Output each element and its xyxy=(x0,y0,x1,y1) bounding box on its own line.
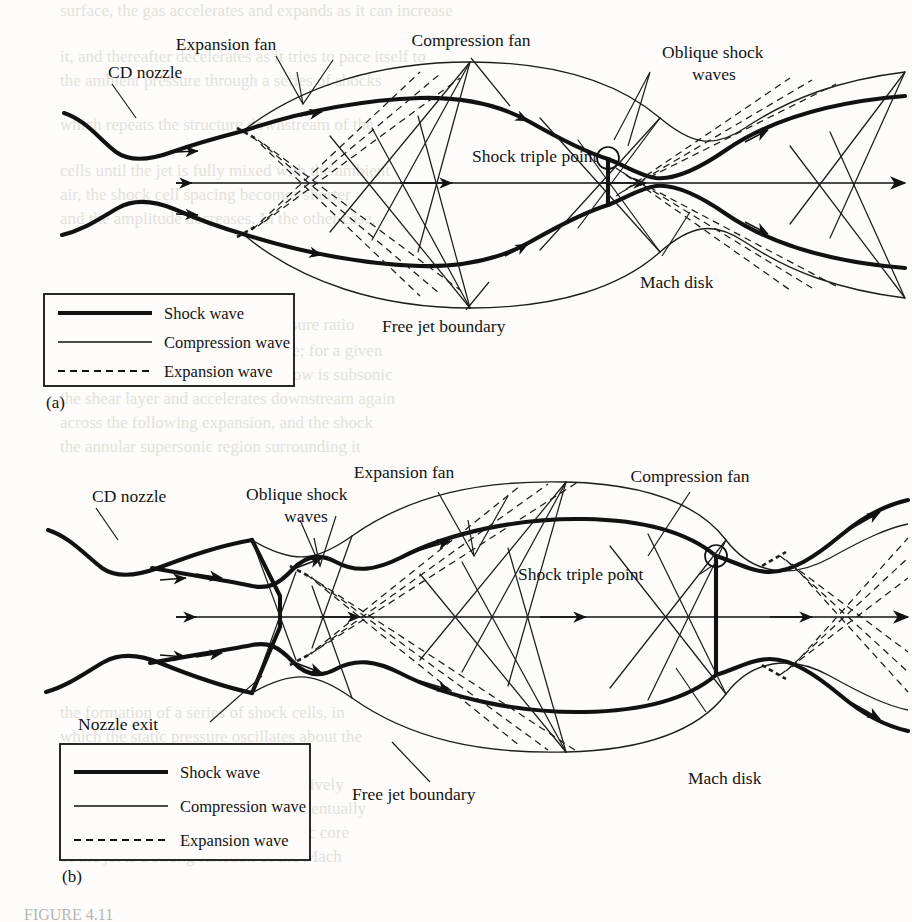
label-nozzle-exit-b: Nozzle exit xyxy=(78,714,158,734)
label-free-jet-boundary-a: Free jet boundary xyxy=(382,316,506,336)
label-mach-disk-b: Mach disk xyxy=(688,768,762,788)
label-oblique-shock-waves-b-line2: waves xyxy=(284,506,328,526)
legend-label-compression-b: Compression wave xyxy=(180,797,306,816)
legend-a: Shock wave Compression wave Expansion wa… xyxy=(44,294,294,386)
label-shock-triple-point-a: Shock triple point xyxy=(472,146,598,166)
label-mach-disk-a: Mach disk xyxy=(640,272,714,292)
label-compression-fan-a: Compression fan xyxy=(411,30,530,50)
label-oblique-shock-waves-a-line1: Oblique shock xyxy=(662,42,764,62)
svg-text:which repeats the structure do: which repeats the structure downstream o… xyxy=(60,115,373,134)
inflow-arrow-a2 xyxy=(176,214,198,215)
legend-b: Shock wave Compression wave Expansion wa… xyxy=(60,744,310,860)
panel-id-a: (a) xyxy=(46,393,65,412)
label-shock-triple-point-b: Shock triple point xyxy=(518,564,644,584)
panel-id-b: (b) xyxy=(62,867,82,886)
label-free-jet-boundary-b: Free jet boundary xyxy=(352,784,476,804)
legend-label-expansion-b: Expansion wave xyxy=(180,831,289,850)
svg-text:the shear layer and accelerate: the shear layer and accelerates downstre… xyxy=(60,389,396,408)
svg-text:cells until the jet is fully m: cells until the jet is fully mixed with … xyxy=(60,161,390,180)
figure-supersonic-jet-structure: surface, the gas accelerates and expands… xyxy=(0,0,912,922)
label-cd-nozzle-a: CD nozzle xyxy=(108,62,183,82)
legend-label-shock-a: Shock wave xyxy=(164,304,244,323)
svg-text:across the following expansion: across the following expansion, and the … xyxy=(60,413,374,432)
label-cd-nozzle-b: CD nozzle xyxy=(92,486,167,506)
label-expansion-fan-b: Expansion fan xyxy=(354,462,455,482)
label-expansion-fan-a: Expansion fan xyxy=(176,34,277,54)
svg-text:surface, the gas accelerates a: surface, the gas accelerates and expands… xyxy=(60,1,453,20)
figure-caption-text: FIGURE 4.11 xyxy=(24,906,113,922)
svg-text:the annular supersonic region: the annular supersonic region surroundin… xyxy=(60,437,361,456)
label-compression-fan-b: Compression fan xyxy=(630,466,749,486)
inflow-arrow-a1 xyxy=(176,151,198,152)
legend-label-shock-b: Shock wave xyxy=(180,763,260,782)
legend-label-compression-a: Compression wave xyxy=(164,333,290,352)
label-oblique-shock-waves-b-line1: Oblique shock xyxy=(246,484,348,504)
label-oblique-shock-waves-a-line2: waves xyxy=(692,64,736,84)
legend-label-expansion-a: Expansion wave xyxy=(164,362,273,381)
figure-caption: FIGURE 4.11 xyxy=(24,906,113,922)
